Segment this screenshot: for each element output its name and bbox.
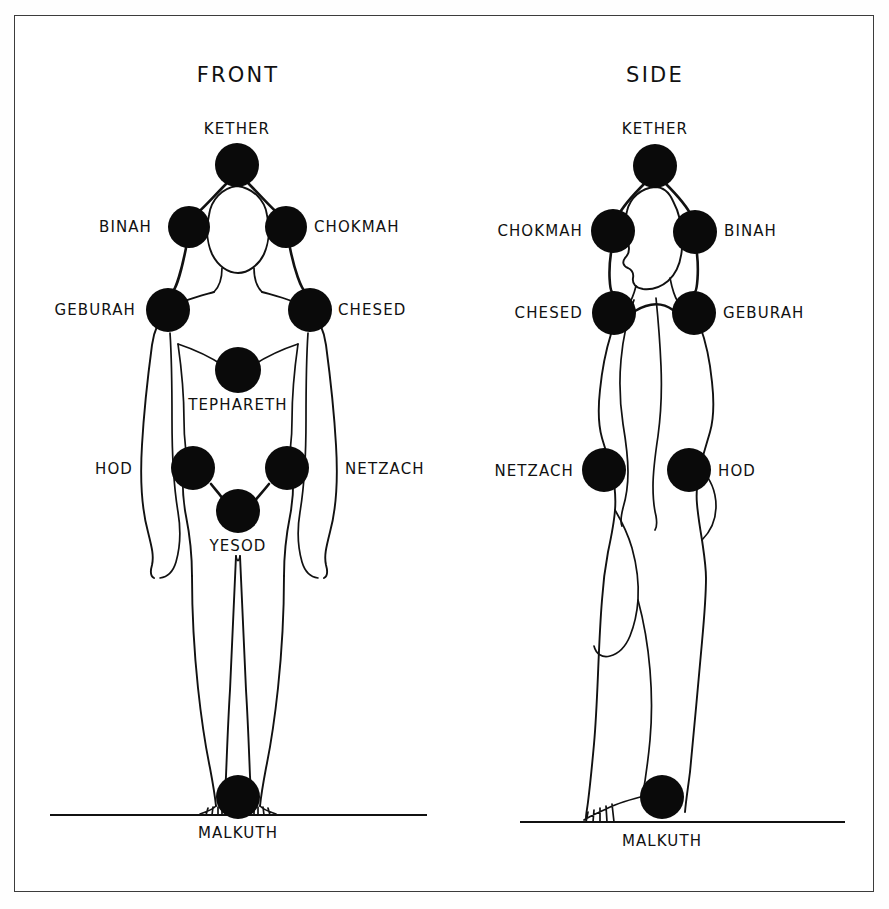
side-path-binah-geburah <box>695 254 698 292</box>
front-right-arm-outline <box>262 292 337 578</box>
front-label-netzach: NETZACH <box>345 460 425 478</box>
diagram-root: FRONT KETHER BINAH CHOKMAH GEBURAH CHESE… <box>0 0 889 909</box>
side-sephira-chesed[interactable] <box>592 291 636 335</box>
side-label-binah: BINAH <box>724 222 777 240</box>
side-sephiroth-discs <box>582 144 717 819</box>
side-label-malkuth: MALKUTH <box>622 832 702 850</box>
side-label-geburah: GEBURAH <box>723 304 804 322</box>
side-label-chokmah: CHOKMAH <box>497 222 583 240</box>
front-label-kether: KETHER <box>204 120 270 138</box>
front-sephira-malkuth[interactable] <box>216 775 260 819</box>
side-arm-outline <box>620 298 661 530</box>
front-left-arm-outline <box>141 292 214 578</box>
front-crotch <box>236 556 240 561</box>
front-label-chokmah: CHOKMAH <box>314 218 400 236</box>
front-sephira-kether[interactable] <box>215 143 259 187</box>
front-path-chokmah-chesed <box>290 248 306 292</box>
side-back-outline <box>678 302 713 812</box>
front-panel-title: FRONT <box>197 63 280 87</box>
front-neck <box>214 268 262 292</box>
front-path-binah-geburah <box>172 248 186 292</box>
diagram-canvas: FRONT KETHER BINAH CHOKMAH GEBURAH CHESE… <box>0 0 889 909</box>
side-label-netzach: NETZACH <box>494 462 574 480</box>
front-sephira-chesed[interactable] <box>288 288 332 332</box>
front-body-outline <box>207 186 268 273</box>
side-panel-title: SIDE <box>626 63 684 87</box>
side-front-outline <box>586 305 628 818</box>
side-sephira-malkuth[interactable] <box>640 775 684 819</box>
side-label-chesed: CHESED <box>515 304 583 322</box>
front-sephira-binah[interactable] <box>168 206 210 248</box>
side-neck <box>628 278 678 305</box>
side-sephira-kether[interactable] <box>633 144 677 188</box>
side-sephira-binah[interactable] <box>673 210 717 254</box>
front-label-chesed: CHESED <box>338 301 406 319</box>
side-figure: SIDE KETHER CHOKMAH BINAH CHESED GEBURAH… <box>494 63 845 850</box>
side-label-hod: HOD <box>718 462 756 480</box>
side-sephira-chokmah[interactable] <box>591 209 635 253</box>
front-sephira-tephareth[interactable] <box>215 347 261 393</box>
front-path-netzach-yesod <box>256 484 269 500</box>
front-sephira-hod[interactable] <box>171 446 215 490</box>
side-label-kether: KETHER <box>622 120 688 138</box>
front-right-leg-outline <box>240 556 284 808</box>
front-sephira-geburah[interactable] <box>146 288 190 332</box>
front-label-tephareth: TEPHARETH <box>187 396 287 414</box>
side-sephira-geburah[interactable] <box>672 291 716 335</box>
front-left-leg-outline <box>192 556 236 808</box>
front-label-yesod: YESOD <box>208 537 266 555</box>
side-sephira-hod[interactable] <box>667 448 711 492</box>
front-figure: FRONT KETHER BINAH CHOKMAH GEBURAH CHESE… <box>50 63 427 842</box>
side-sephira-netzach[interactable] <box>582 448 626 492</box>
front-label-hod: HOD <box>95 460 133 478</box>
front-label-geburah: GEBURAH <box>55 301 136 319</box>
side-calf-contour <box>638 600 652 800</box>
side-path-chesed-geburah <box>635 304 673 311</box>
side-foot-outline <box>584 795 648 822</box>
front-sephira-netzach[interactable] <box>265 446 309 490</box>
front-sephira-chokmah[interactable] <box>265 206 307 248</box>
side-path-chokmah-chesed <box>609 253 612 292</box>
front-sephira-yesod[interactable] <box>216 489 260 533</box>
front-label-malkuth: MALKUTH <box>198 824 278 842</box>
front-label-binah: BINAH <box>99 218 152 236</box>
